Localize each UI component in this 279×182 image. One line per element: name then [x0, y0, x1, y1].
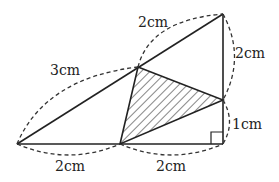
- geometry-diagram: 3cm 2cm 2cm 1cm 2cm 2cm: [0, 0, 279, 182]
- arc-vert-upper: [223, 14, 235, 100]
- label-vert-lower: 1cm: [232, 116, 262, 132]
- arc-base-right: [120, 144, 223, 155]
- arc-vert-lower: [223, 100, 230, 144]
- right-angle-marker: [211, 132, 223, 144]
- label-base-left: 2cm: [55, 158, 85, 174]
- label-hyp-lower: 3cm: [50, 62, 80, 78]
- hypotenuse: [17, 14, 223, 144]
- label-base-right: 2cm: [156, 158, 186, 174]
- label-vert-upper: 2cm: [235, 45, 265, 61]
- shaded-triangle: [120, 67, 223, 144]
- arc-base-left: [17, 144, 120, 155]
- label-hyp-upper: 2cm: [138, 14, 168, 30]
